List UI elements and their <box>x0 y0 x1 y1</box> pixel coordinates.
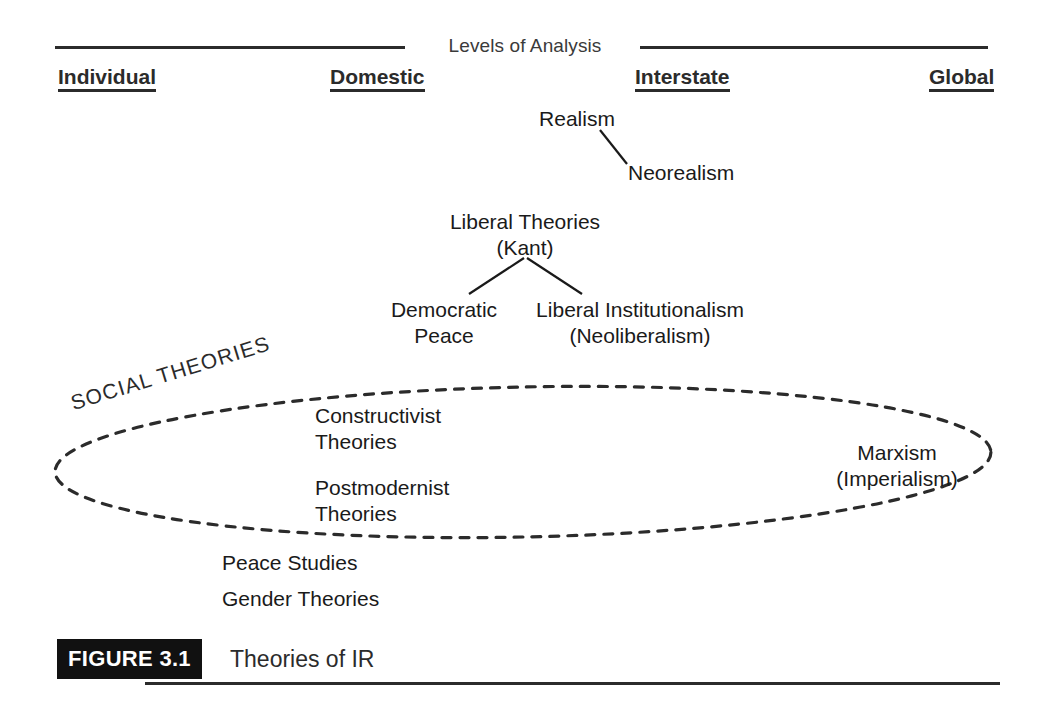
figure-caption-title: Theories of IR <box>230 639 374 679</box>
node-neorealism: Neorealism <box>628 160 734 186</box>
node-democratic-peace: Democratic Peace <box>391 297 497 349</box>
level-header-interstate: Interstate <box>635 65 730 92</box>
connector-realism-neorealism <box>600 130 627 164</box>
node-liberal-institutionalism-line2: (Neoliberalism) <box>536 323 744 349</box>
node-liberal-theories: Liberal Theories (Kant) <box>450 209 600 261</box>
node-realism-label: Realism <box>539 106 615 132</box>
node-constructivist-theories-line1: Constructivist <box>315 403 441 429</box>
node-marxism-line1: Marxism <box>836 440 957 466</box>
node-liberal-institutionalism: Liberal Institutionalism (Neoliberalism) <box>536 297 744 349</box>
node-constructivist-theories: Constructivist Theories <box>315 403 441 455</box>
figure-caption-rule <box>145 682 1000 685</box>
node-constructivist-theories-line2: Theories <box>315 429 441 455</box>
node-postmodernist-theories-line1: Postmodernist <box>315 475 449 501</box>
node-democratic-peace-line2: Peace <box>391 323 497 349</box>
figure-theories-of-ir: Levels of Analysis Individual Domestic I… <box>0 0 1048 728</box>
level-header-global: Global <box>929 65 994 92</box>
node-postmodernist-theories-line2: Theories <box>315 501 449 527</box>
node-democratic-peace-line1: Democratic <box>391 297 497 323</box>
node-gender-theories: Gender Theories <box>222 586 379 612</box>
levels-of-analysis-title: Levels of Analysis <box>413 35 637 57</box>
level-header-individual: Individual <box>58 65 156 92</box>
levels-axis-rule-left <box>55 46 405 49</box>
connector-liberal-democratic-peace <box>469 258 524 294</box>
node-gender-theories-label: Gender Theories <box>222 586 379 612</box>
node-peace-studies: Peace Studies <box>222 550 357 576</box>
levels-axis-rule-right <box>640 46 988 49</box>
node-marxism-line2: (Imperialism) <box>836 466 957 492</box>
node-liberal-theories-line2: (Kant) <box>450 235 600 261</box>
node-realism: Realism <box>539 106 615 132</box>
node-postmodernist-theories: Postmodernist Theories <box>315 475 449 527</box>
connector-liberal-institutionalism <box>527 258 582 294</box>
figure-number-badge: FIGURE 3.1 <box>57 639 202 679</box>
node-neorealism-label: Neorealism <box>628 160 734 186</box>
node-marxism: Marxism (Imperialism) <box>836 440 957 492</box>
node-liberal-institutionalism-line1: Liberal Institutionalism <box>536 297 744 323</box>
node-peace-studies-label: Peace Studies <box>222 550 357 576</box>
figure-caption-bar: FIGURE 3.1 Theories of IR <box>57 639 1000 685</box>
level-header-domestic: Domestic <box>330 65 425 92</box>
social-theories-group-label: SOCIAL THEORIES <box>68 331 273 414</box>
node-liberal-theories-line1: Liberal Theories <box>450 209 600 235</box>
